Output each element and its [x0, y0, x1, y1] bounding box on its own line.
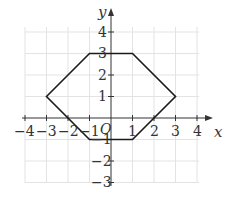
x-tick-label: −3 — [36, 123, 57, 139]
y-axis-arrow-icon — [108, 8, 114, 16]
x-axis-arrow-icon — [205, 115, 213, 121]
x-tick-label: 4 — [193, 123, 202, 139]
x-tick-label: 1 — [128, 123, 137, 139]
y-tick-label: −2 — [91, 153, 112, 169]
y-axis-label: y — [97, 3, 107, 21]
y-tick-label: −3 — [91, 174, 112, 190]
x-tick-label: 3 — [171, 123, 180, 139]
coordinate-plane: y x O −4 −3 −2 −1 1 2 3 4 4 3 2 1 −1 −2 … — [0, 0, 229, 200]
x-axis-label: x — [214, 123, 223, 141]
x-tick-label: −4 — [14, 123, 35, 139]
x-tick-label: 2 — [150, 123, 159, 139]
y-tick-label: 2 — [98, 67, 107, 83]
grid — [25, 27, 199, 183]
x-tick-label: −2 — [58, 123, 79, 139]
y-tick-label: −1 — [91, 131, 112, 147]
y-tick-label: 1 — [98, 88, 107, 104]
y-tick-label: 4 — [98, 24, 107, 40]
y-tick-label: 3 — [98, 45, 107, 61]
